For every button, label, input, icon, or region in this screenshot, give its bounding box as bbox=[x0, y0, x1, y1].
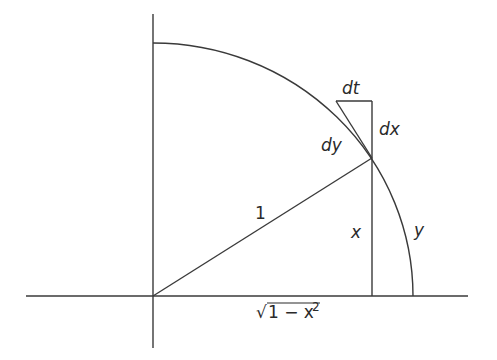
label-radius-one: 1 bbox=[255, 203, 266, 223]
label-dx: dx bbox=[379, 119, 401, 139]
label-x: x bbox=[350, 222, 362, 242]
sqrt-exponent: 2 bbox=[312, 300, 320, 314]
sqrt-symbol: √ bbox=[256, 302, 267, 322]
radius-line bbox=[153, 158, 372, 296]
label-dt: dt bbox=[342, 78, 361, 98]
sqrt-body: 1 − x bbox=[268, 302, 314, 322]
label-dy: dy bbox=[321, 135, 343, 155]
label-sqrt-expression: √ 1 − x 2 bbox=[256, 300, 320, 322]
unit-circle-arc bbox=[153, 43, 413, 296]
diagram-canvas: dt dy dx 1 x y √ 1 − x 2 bbox=[0, 0, 497, 360]
label-y: y bbox=[413, 220, 425, 240]
